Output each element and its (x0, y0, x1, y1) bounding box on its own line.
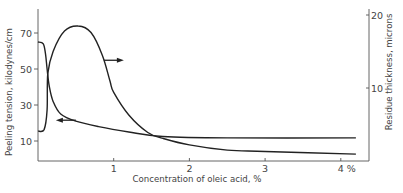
y-tick-label: 30 (20, 100, 32, 111)
right-y-axis-label: Residue thickness, microns (384, 13, 394, 130)
x-tick-label: 3 (262, 163, 268, 174)
left-y-axis-label: Peeling tension, kilodynes/cm (4, 28, 14, 156)
y2-tick-label: 20 (371, 10, 383, 21)
y2-tick-label: 10 (371, 83, 383, 94)
x-tick-label: 2 (186, 163, 192, 174)
x-axis-ticks: 1234 % (111, 158, 356, 174)
left-arrow-icon (56, 118, 76, 123)
x-tick-label: 1 (111, 163, 117, 174)
x-axis-label: Concentration of oleic acid, % (133, 174, 262, 184)
x-tick-label: 4 % (338, 163, 356, 174)
right-arrow-icon (104, 58, 124, 63)
residue-thickness-curve (38, 26, 356, 154)
dual-axis-line-chart: 1234 % 10305070 1020 Concentration of ol… (0, 0, 403, 193)
y-tick-label: 10 (20, 136, 32, 147)
y-tick-label: 50 (20, 64, 32, 75)
left-y-axis-ticks: 10305070 (20, 28, 38, 147)
y-tick-label: 70 (20, 28, 32, 39)
peeling-tension-curve (38, 42, 356, 138)
